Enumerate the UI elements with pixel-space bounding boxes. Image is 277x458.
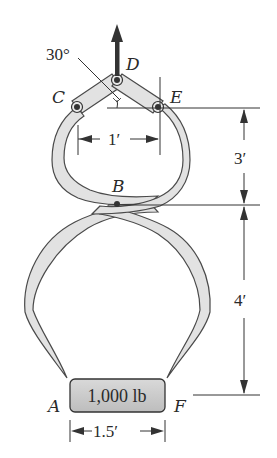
label-A: A bbox=[46, 396, 60, 416]
tongs-diagram: 1′ 3′ 4′ 1,000 lb 1.5′ 30° D C E B A F bbox=[0, 0, 277, 458]
pin-C bbox=[72, 102, 83, 113]
dimension-3ft-label: 3′ bbox=[234, 149, 246, 168]
right-jaw-lower bbox=[100, 206, 210, 378]
lift-force-arrow bbox=[111, 24, 123, 76]
dimension-1ft-label: 1′ bbox=[108, 130, 120, 149]
dimension-1-5ft-label: 1.5′ bbox=[93, 422, 118, 441]
dimension-4ft-label: 4′ bbox=[234, 291, 246, 310]
pin-D bbox=[112, 75, 123, 86]
pin-B bbox=[114, 201, 120, 207]
angle-label: 30° bbox=[46, 45, 70, 64]
label-F: F bbox=[173, 396, 187, 416]
label-D: D bbox=[125, 54, 140, 74]
label-C: C bbox=[52, 87, 65, 107]
load-label: 1,000 lb bbox=[87, 386, 146, 406]
label-E: E bbox=[169, 87, 183, 107]
pin-E bbox=[153, 102, 164, 113]
left-jaw-lower bbox=[25, 203, 158, 378]
label-B: B bbox=[111, 176, 125, 196]
left-upper-loop bbox=[52, 107, 158, 205]
